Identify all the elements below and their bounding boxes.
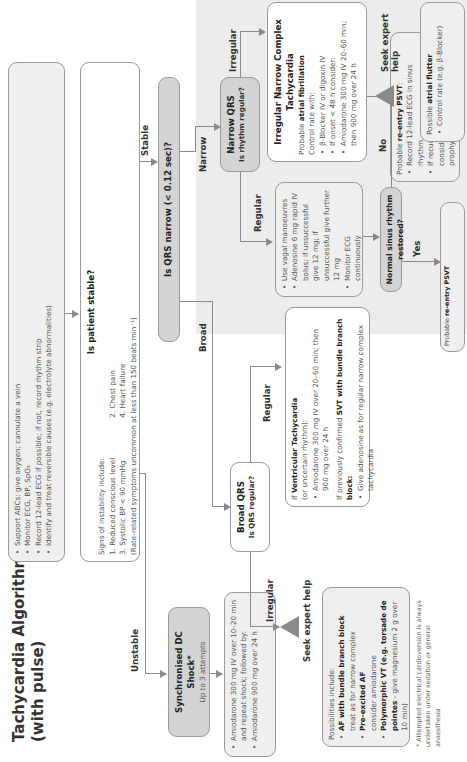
label-stable: Stable xyxy=(140,125,150,156)
title-line2: (with pulse) xyxy=(29,553,48,742)
flutter-item: Control rate (e.g. β-Blocker) xyxy=(435,9,445,126)
broad-qrs-box: Broad QRS Is QRS regular? xyxy=(230,462,270,552)
irregular-narrow-box: Irregular Narrow Complex Tachycardia Pro… xyxy=(267,2,367,162)
label-regular: Regular xyxy=(253,194,263,232)
arrow-down-icon xyxy=(273,623,280,631)
connector xyxy=(250,366,277,367)
possibility-item: Polymorphic VT (e.g. torsade de pointes … xyxy=(379,594,410,731)
af-item: β-Blocker IV or digoxin IV xyxy=(318,9,328,146)
synchronised-dc-shock-box: Synchronised DC Shock* Up to 3 attempts xyxy=(168,607,210,737)
seek-expert-help-label: Seek expert help xyxy=(302,580,312,662)
amio-item: Amiodarone 300 mg IV over 10–20 min and … xyxy=(229,599,250,741)
psvt-box: Probable re-entry PSVT xyxy=(440,202,465,352)
possibilities-intro: Possibilities include: xyxy=(327,594,337,740)
connector xyxy=(180,301,212,302)
narrow-regular-item: Monitor ECG continuously xyxy=(343,189,364,281)
connector xyxy=(195,127,196,152)
arrow-down-icon xyxy=(151,158,158,166)
arrow-down-icon xyxy=(275,363,282,371)
rate-note: (Rate-related symptoms uncommon at less … xyxy=(129,69,139,555)
broad-qrs-title: Broad QRS xyxy=(235,469,247,545)
label-yes: Yes xyxy=(412,241,422,257)
irregular-narrow-title: Irregular Narrow Complex Tachycardia xyxy=(272,9,297,155)
dc-shock-sub: Up to 3 attempts xyxy=(198,614,208,730)
label-narrow: Narrow xyxy=(198,137,208,172)
sign-item: 4. Heart failure xyxy=(118,364,128,418)
connector xyxy=(180,151,195,152)
narrow-qrs-title: Narrow QRS xyxy=(225,84,237,165)
initial-item: Support ABCs: give oxygen; cannulate a v… xyxy=(13,69,23,546)
narrow-regular-item: Adenosine 6 mg rapid IV bolus; if unsucc… xyxy=(290,189,342,281)
arrow-down-icon xyxy=(259,28,266,36)
tachycardia-algorithm-diagram: Tachycardia Algorithm (with pulse) Suppo… xyxy=(0,0,467,762)
narrow-regular-box: Use vagal manoeuvres Adenosine 6 mg rapi… xyxy=(275,182,363,297)
narrow-qrs-box: Narrow QRS Is rhythm regular? xyxy=(220,77,260,172)
sign-item: 2. Chest pain xyxy=(108,364,118,418)
amio-item: Amiodarone 900 mg over 24 h xyxy=(250,599,260,741)
is-patient-stable-box: Is patient stable? Signs of instability … xyxy=(80,62,140,562)
broad-regular-box: If Ventricular Tachycardia (or uncertain… xyxy=(285,307,370,507)
normal-sinus-rhythm-box: Normal sinus rhythm restored? xyxy=(380,187,402,292)
sign-item: 1. Reduced conscious level xyxy=(108,458,118,555)
broad-irregular-box: Possibilities include: AF with bundle br… xyxy=(322,587,410,747)
seek-expert-help-label: Seek expert help xyxy=(380,0,400,72)
connector xyxy=(250,552,251,627)
stable-question-title: Is patient stable? xyxy=(85,69,97,555)
connector xyxy=(240,172,241,242)
narrow-regular-item: Use vagal manoeuvres xyxy=(280,189,290,281)
label-irregular: Irregular xyxy=(228,29,238,72)
label-unstable: Unstable xyxy=(130,629,140,672)
arrow-down-icon xyxy=(266,238,273,246)
svt-item: Give adenosine as for regular narrow com… xyxy=(356,314,377,491)
narrow-qrs-sub: Is rhythm regular? xyxy=(237,84,247,165)
is-qrs-narrow-box: Is QRS narrow (< 0.12 sec)? xyxy=(158,77,180,342)
vt-item: Amiodarone 300 mg IV over 20–60 min; the… xyxy=(311,314,332,491)
control-rate: Control rate with: xyxy=(307,9,317,155)
label-broad: Broad xyxy=(198,323,208,352)
possibility-item: AF with bundle branch blocktreat as for … xyxy=(337,594,358,731)
label-regular: Regular xyxy=(262,384,272,422)
warning-triangle-icon xyxy=(280,616,299,638)
nsr-question-title: Normal sinus rhythm restored? xyxy=(384,191,406,288)
broad-qrs-sub: Is QRS regular? xyxy=(247,469,257,545)
initial-item: Monitor ECG, BP, SpO₂ xyxy=(23,69,33,546)
qrs-question-title: Is QRS narrow (< 0.12 sec)? xyxy=(162,81,174,338)
arrow-down-icon xyxy=(216,670,223,678)
warning-triangle-icon xyxy=(375,85,394,107)
initial-item: Identify and treat reversible causes (e.… xyxy=(44,69,54,546)
connector xyxy=(250,626,275,627)
connector xyxy=(391,97,392,187)
connector xyxy=(240,32,241,77)
af-item: Amiodarone 300 mg IV 20–60 min; then 900… xyxy=(339,9,360,146)
footnote: * Attempted electrical cardioversion is … xyxy=(415,597,443,747)
initial-item: Record 12-lead ECG if possible; if not, … xyxy=(34,69,44,546)
dc-shock-title: Synchronised DC Shock* xyxy=(173,614,198,730)
instability-intro: Signs of instability include: xyxy=(97,69,107,555)
vt-sub: (or uncertain rhythm): xyxy=(300,314,310,500)
title-line1: Tachycardia Algorithm xyxy=(10,553,29,742)
arrow-down-icon xyxy=(160,670,167,678)
af-item: If onset < 48 h consider: xyxy=(328,9,338,146)
label-no: No xyxy=(378,139,388,152)
connector xyxy=(145,473,146,674)
arrow-down-icon xyxy=(373,233,380,241)
sign-item: 3. Systolic BP < 90 mmHg xyxy=(118,458,128,555)
connector xyxy=(250,367,251,462)
label-irregular: Irregular xyxy=(265,579,275,622)
connector xyxy=(402,261,437,262)
connector xyxy=(240,241,268,242)
initial-assessment-box: Support ABCs: give oxygen; cannulate a v… xyxy=(8,62,65,562)
connector xyxy=(212,301,213,507)
possibility-item: Pre-excited AFconsider amiodarone xyxy=(358,594,379,731)
arrow-down-icon xyxy=(72,310,79,318)
page-title: Tachycardia Algorithm (with pulse) xyxy=(10,553,48,742)
atrial-flutter-box: Possible atrial flutter Control rate (e.… xyxy=(420,2,465,142)
